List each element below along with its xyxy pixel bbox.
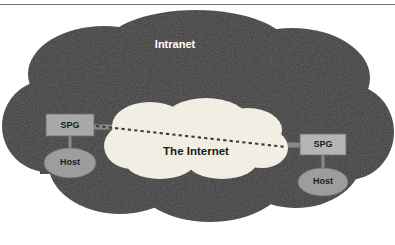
- host-right-node[interactable]: Host: [298, 168, 348, 196]
- network-diagram: Intranet: [0, 0, 395, 245]
- internet-label: The Internet: [163, 145, 229, 157]
- spg-left-label: SPG: [60, 120, 79, 130]
- host-left-node[interactable]: Host: [44, 148, 96, 178]
- host-left-label: Host: [60, 157, 80, 167]
- diagram-canvas: Intranet: [0, 0, 395, 245]
- spg-left-node[interactable]: SPG: [46, 114, 94, 136]
- host-right-label: Host: [313, 176, 333, 186]
- internet-cloud-group: The Internet: [96, 98, 288, 179]
- spg-right-node[interactable]: SPG: [300, 134, 346, 155]
- intranet-label: Intranet: [155, 38, 196, 50]
- spg-right-label: SPG: [313, 139, 332, 149]
